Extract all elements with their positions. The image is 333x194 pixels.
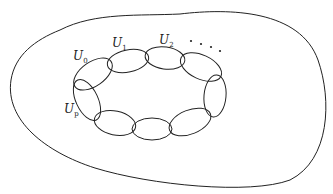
label-U2: U2 [159, 33, 174, 49]
label-U1: U1 [112, 36, 127, 52]
set-U3 [176, 47, 226, 87]
set-U7 [92, 107, 138, 139]
continuation-dots [190, 40, 221, 52]
set-U5 [165, 103, 215, 142]
ellipse-chain [68, 44, 228, 141]
diagram-canvas: U0 U1 U2 Up [0, 0, 333, 194]
label-U0: U0 [73, 49, 88, 65]
set-U2 [144, 44, 187, 71]
set-U6 [132, 118, 172, 140]
set-U1 [105, 46, 151, 76]
